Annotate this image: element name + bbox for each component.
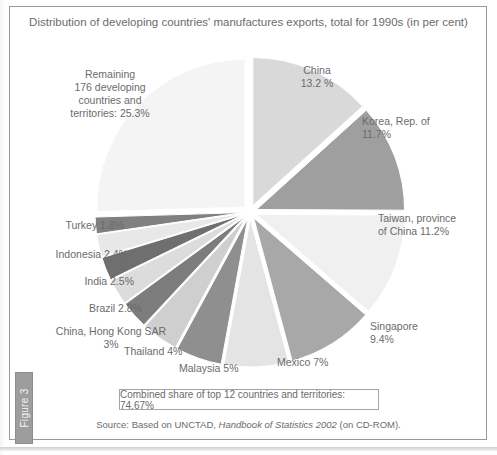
source-prefix: Source: Based on UNCTAD,: [96, 419, 218, 430]
source-publication-title: Handbook of Statistics 2002: [219, 419, 337, 430]
page-left-shadow: [0, 0, 5, 455]
slice-label-korea: Korea, Rep. of 11.7%: [362, 115, 482, 141]
slice-label-turkey: Turkey 1.8%: [28, 219, 124, 232]
chart-title: Distribution of developing countries' ma…: [0, 14, 497, 30]
slice-label-china: China 13.2 %: [272, 64, 362, 90]
slice-label-mexico: Mexico 7%: [277, 356, 367, 369]
slice-label-taiwan: Taiwan, province of China 11.2%: [378, 212, 496, 238]
combined-share-note: Combined share of top 12 countries and t…: [119, 389, 379, 410]
combined-share-text: Combined share of top 12 countries and t…: [120, 389, 378, 411]
figure-number-tab: Figure 3: [15, 372, 33, 444]
source-note: Source: Based on UNCTAD, Handbook of Sta…: [0, 419, 497, 430]
slice-label-malaysia: Malaysia 5%: [179, 362, 269, 375]
slice-label-hong-kong: China, Hong Kong SAR 3%: [46, 325, 176, 351]
slice-label-indonesia: Indonesia 2.4%: [22, 248, 128, 261]
slice-label-singapore: Singapore 9.4%: [370, 320, 480, 346]
slice-label-remaining: Remaining 176 developing countries and t…: [48, 68, 172, 120]
figure-page: Figure 3 Distribution of developing coun…: [0, 0, 497, 455]
source-suffix: (on CD-ROM).: [337, 419, 401, 430]
slice-label-brazil: Brazil 2.8%: [40, 302, 142, 315]
slice-label-india: India 2.5%: [36, 275, 134, 288]
page-bottom-shadow: [0, 447, 497, 451]
